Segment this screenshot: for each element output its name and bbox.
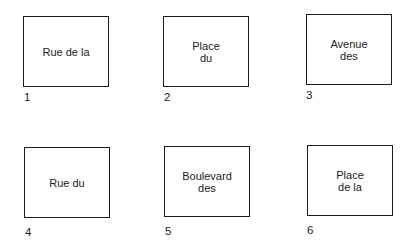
street-sign-label: Rue du [49, 177, 84, 189]
street-sign-box-2: Place du [163, 16, 249, 87]
street-sign-box-3: Avenue des [306, 14, 392, 85]
street-sign-box-4: Rue du [24, 147, 110, 218]
street-sign-label: Rue de la [42, 46, 89, 58]
card-number: 5 [165, 225, 171, 237]
street-sign-label: Avenue des [330, 38, 367, 62]
card-number: 6 [307, 224, 313, 236]
card-number: 2 [164, 91, 170, 103]
card-number: 4 [25, 226, 31, 238]
street-sign-box-6: Place de la [307, 145, 393, 216]
card-number: 3 [306, 89, 312, 101]
street-sign-box-5: Boulevard des [164, 146, 250, 217]
card-number: 1 [24, 91, 30, 103]
street-sign-label: Boulevard des [182, 170, 232, 194]
street-sign-label: Place du [192, 40, 220, 64]
street-sign-label: Place de la [336, 169, 364, 193]
street-sign-box-1: Rue de la [23, 16, 109, 87]
